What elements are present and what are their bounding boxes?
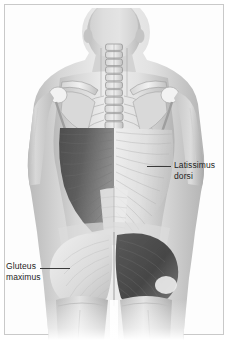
leader-line-latissimus-dorsi (147, 166, 171, 167)
label-latissimus-dorsi: Latissimus dorsi (174, 160, 215, 181)
greater-trochanter-right (155, 276, 177, 294)
anatomy-figure: Latissimus dorsi Gluteus maximus (0, 0, 229, 340)
label-gluteus-maximus: Gluteus maximus (6, 261, 58, 282)
